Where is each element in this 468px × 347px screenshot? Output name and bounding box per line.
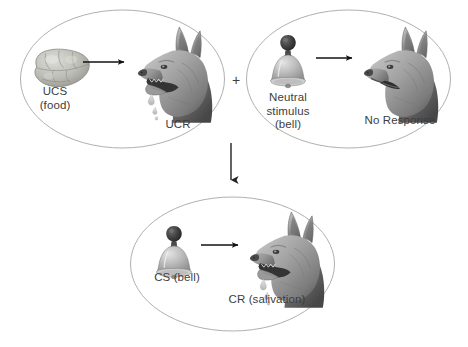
neutral-stimulus-label-line2: stimulus — [267, 105, 310, 119]
ucs-label-line2: (food) — [40, 99, 71, 113]
no-response-label: No Response — [365, 114, 436, 128]
bell-icon-1 — [271, 35, 306, 88]
classical-conditioning-diagram: UCS (food) UCR + Neutral stimulus (bell)… — [0, 0, 468, 347]
neutral-stimulus-label-line3: (bell) — [267, 118, 310, 132]
ucs-label-line1: UCS — [40, 85, 71, 99]
cr-label: CR (salivation) — [229, 293, 306, 307]
dog-head-icon — [364, 27, 438, 123]
plus-icon: + — [232, 72, 240, 88]
cs-label: CS (bell) — [154, 271, 200, 285]
neutral-stimulus-label-line1: Neutral — [267, 91, 310, 105]
food-icon — [35, 49, 89, 87]
ucs-label: UCS (food) — [40, 85, 71, 112]
ucr-label: UCR — [165, 118, 190, 132]
neutral-stimulus-label: Neutral stimulus (bell) — [267, 91, 310, 132]
dog-head-salivating-icon-1 — [138, 27, 212, 123]
